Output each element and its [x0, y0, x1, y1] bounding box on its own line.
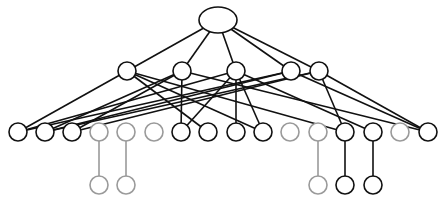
graph-canvas	[0, 0, 445, 204]
node-b16	[419, 123, 437, 141]
node-l3	[309, 176, 327, 194]
hierarchy-diagram	[0, 0, 445, 204]
node-b9	[227, 123, 245, 141]
node-b13	[336, 123, 354, 141]
node-b15	[391, 123, 409, 141]
edges-layer	[18, 20, 428, 185]
node-b8	[199, 123, 217, 141]
node-l2	[117, 176, 135, 194]
node-b11	[281, 123, 299, 141]
edge-m2-b2	[45, 71, 182, 132]
node-b10	[254, 123, 272, 141]
node-l1	[90, 176, 108, 194]
node-root	[199, 7, 237, 33]
node-m4	[282, 62, 300, 80]
node-m5	[310, 62, 328, 80]
node-l4	[336, 176, 354, 194]
node-l5	[364, 176, 382, 194]
node-b5	[117, 123, 135, 141]
node-b6	[145, 123, 163, 141]
node-b1	[9, 123, 27, 141]
node-m3	[227, 62, 245, 80]
node-b3	[63, 123, 81, 141]
node-b14	[364, 123, 382, 141]
node-b4	[90, 123, 108, 141]
node-b7	[172, 123, 190, 141]
edge-m5-b13	[319, 71, 345, 132]
node-b2	[36, 123, 54, 141]
node-m1	[118, 62, 136, 80]
node-b12	[309, 123, 327, 141]
edge-m4-b2	[45, 71, 291, 132]
node-m2	[173, 62, 191, 80]
